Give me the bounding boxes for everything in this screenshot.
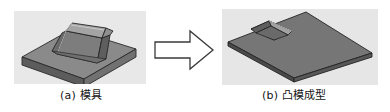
- figure-panel-a: [14, 11, 146, 84]
- caption-panel-a-text: (a) 模具: [60, 89, 102, 102]
- figure-panel-b: [222, 9, 378, 85]
- caption-panel-b-text: (b) 凸模成型: [262, 89, 327, 102]
- sheet-top-face: [228, 12, 372, 78]
- arrow-shape: [155, 31, 213, 69]
- figure-container: (a) 模具 (b) 凸模成型: [0, 0, 390, 112]
- caption-panel-b: (b) 凸模成型: [262, 88, 327, 103]
- block-arrow-right-icon: [152, 26, 216, 74]
- caption-panel-a: (a) 模具: [60, 88, 102, 103]
- process-arrow: [152, 26, 216, 74]
- formed-sheet-illustration: [222, 9, 378, 85]
- mold-illustration: [14, 11, 146, 84]
